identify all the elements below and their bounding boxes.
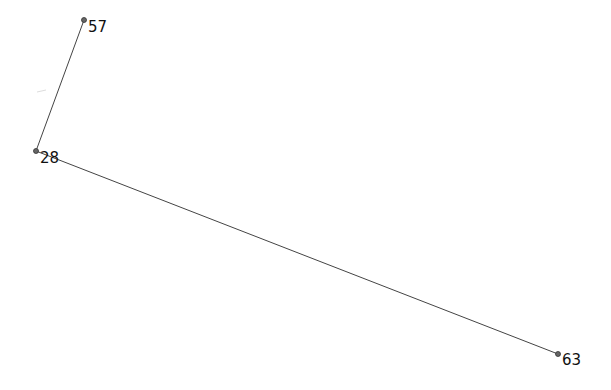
node-label-63: 63 [562, 353, 581, 368]
node-28[interactable] [34, 149, 39, 154]
node-label-28: 28 [40, 151, 59, 166]
faint-mark [37, 90, 46, 92]
node-63[interactable] [556, 352, 561, 357]
edge-57-28 [36, 20, 84, 151]
edge-28-63 [36, 151, 558, 354]
node-label-57: 57 [88, 20, 107, 35]
node-57[interactable] [82, 18, 87, 23]
graph-canvas [0, 0, 611, 390]
